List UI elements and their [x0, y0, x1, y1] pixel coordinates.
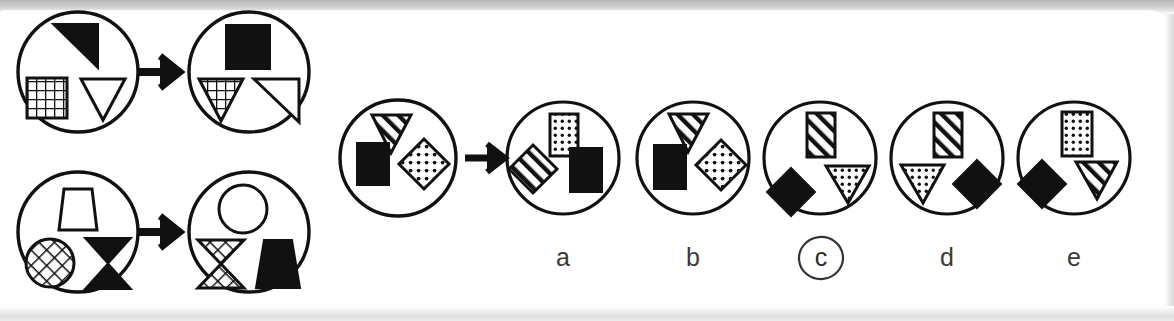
shape-square-solid — [226, 25, 270, 69]
shape-rectangle-striped — [934, 113, 962, 157]
shape-right-triangle-solid — [53, 24, 98, 68]
option-d[interactable] — [891, 102, 1003, 214]
example-1-source — [18, 12, 138, 132]
arrow-example-2 — [137, 216, 180, 248]
shape-rectangle-striped — [807, 113, 835, 157]
shape-diamond-solid — [1018, 160, 1066, 208]
question-stem — [340, 100, 456, 216]
option-label-a: a — [543, 245, 583, 270]
shape-trapezoid-outline — [59, 189, 97, 230]
example-1-result — [189, 12, 309, 132]
option-e[interactable] — [1018, 102, 1130, 214]
option-a[interactable] — [507, 102, 619, 214]
shape-trapezoid-solid — [256, 240, 300, 288]
option-b[interactable] — [637, 102, 749, 214]
scanned-test-page: a b c d e — [0, 0, 1174, 321]
example-2-source — [18, 172, 138, 292]
shape-square-grid — [27, 78, 67, 118]
shape-rectangle-solid — [357, 143, 389, 185]
shape-diamond-dots — [399, 139, 449, 189]
option-label-e: e — [1054, 245, 1094, 270]
shape-down-triangle-striped — [1076, 162, 1117, 199]
shape-bowtie-solid — [85, 238, 131, 289]
shape-rectangle-solid — [570, 148, 602, 192]
shape-down-triangle-outline — [81, 79, 125, 120]
option-c[interactable] — [764, 102, 876, 216]
shape-circle-outline — [219, 185, 267, 233]
example-2-result — [189, 172, 309, 292]
option-label-b: b — [673, 245, 713, 270]
arrow-question — [465, 144, 505, 172]
shape-down-triangle-dots — [826, 166, 869, 203]
shape-diamond-dots — [696, 140, 746, 190]
shape-rectangle-solid — [654, 145, 686, 189]
option-label-d: d — [927, 245, 967, 270]
shape-right-triangle-outline — [254, 79, 299, 122]
puzzle-figures — [0, 0, 1174, 321]
option-label-c: c — [801, 245, 841, 270]
shape-rectangle-dots — [1062, 112, 1092, 156]
shape-diamond-solid — [767, 168, 815, 216]
arrow-example-1 — [137, 56, 180, 88]
shape-circle-crosshatch — [26, 239, 74, 287]
shape-bowtie-crosshatch — [198, 240, 244, 288]
shape-diamond-solid — [953, 160, 1001, 208]
